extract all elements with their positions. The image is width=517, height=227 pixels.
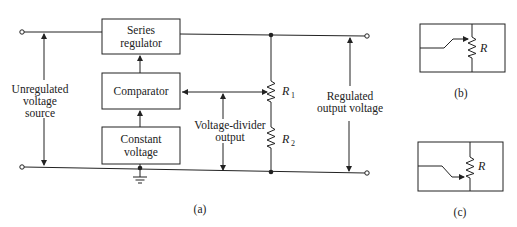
comparator-label: Comparator [114,85,169,98]
figure-a-caption: (a) [194,203,207,216]
r1-label: R [281,84,290,98]
r1-resistor-icon [267,81,275,102]
regulated-label-2: output voltage [317,102,383,115]
figure-b-resistor-icon [468,37,476,58]
figure-a: Series regulator Comparator Constant vol… [12,19,383,216]
figure-c-wiper-arrow [418,166,464,177]
figure-c-r-label: R [477,159,486,173]
constant-voltage-label-2: voltage [124,146,158,159]
r2-label: R [281,132,290,146]
figure-b-caption: (b) [454,87,468,100]
feedback-arrowhead-left [182,89,188,95]
r2-subscript: 2 [291,139,295,148]
figure-c-caption: (c) [454,206,467,219]
constant-voltage-label-1: Constant [121,133,163,145]
divider-label-2: output [215,131,245,144]
output-terminal-top [365,34,369,38]
figure-b-wiper-arrow [420,39,468,48]
r1-subscript: 1 [291,91,295,100]
figure-c-resistor-icon [466,157,474,178]
series-regulator-label-2: regulator [120,37,162,50]
unregulated-label-3: source [25,107,55,119]
ground-icon [133,168,147,183]
figure-c: R (c) [418,142,503,219]
bottom-rail-wire [24,167,365,173]
voltage-regulator-diagram: Series regulator Comparator Constant vol… [0,0,517,227]
input-terminal-bottom [20,165,24,169]
figure-b-r-label: R [479,41,488,55]
bottom-node [269,170,274,175]
figure-b: R (b) [420,24,505,100]
output-terminal-bottom [365,171,369,175]
input-terminal-top [20,30,24,34]
r2-resistor-icon [267,127,275,148]
series-regulator-label-1: Series [127,24,156,36]
